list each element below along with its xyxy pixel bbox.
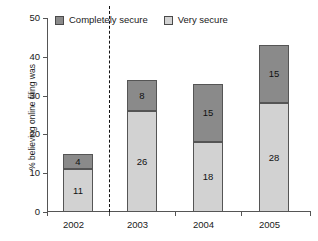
bar-value-very-secure-2002: 11 bbox=[73, 186, 83, 196]
bar-group-2002[interactable]: 4 11 2002 bbox=[63, 154, 93, 212]
plot-area: 50 40 30 20 10 0 4 11 bbox=[47, 18, 311, 212]
bar-segment-completely-secure-2005[interactable]: 15 bbox=[259, 45, 289, 103]
bar-segment-very-secure-2003[interactable]: 26 bbox=[127, 111, 157, 212]
y-tick-label-20: 20 bbox=[29, 128, 40, 139]
y-tick-label-0: 0 bbox=[35, 206, 40, 217]
bar-segment-completely-secure-2003[interactable]: 8 bbox=[127, 80, 157, 111]
bar-value-completely-secure-2004: 15 bbox=[203, 108, 214, 118]
y-tick-20: 20 bbox=[43, 134, 47, 135]
y-tick-30: 30 bbox=[43, 96, 47, 97]
y-tick-label-50: 50 bbox=[29, 12, 40, 23]
x-axis-label-2003: 2003 bbox=[127, 219, 148, 230]
bar-value-very-secure-2003: 26 bbox=[137, 157, 148, 167]
y-tick-label-10: 10 bbox=[29, 167, 40, 178]
stacked-bar-chart: Completely secure Very secure % believin… bbox=[0, 0, 318, 241]
x-tick-3 bbox=[241, 212, 242, 216]
bar-value-completely-secure-2005: 15 bbox=[269, 69, 280, 79]
y-tick-label-40: 40 bbox=[29, 51, 40, 62]
bar-segment-very-secure-2002[interactable]: 11 bbox=[63, 169, 93, 212]
bar-group-2004[interactable]: 15 18 2004 bbox=[193, 84, 223, 212]
y-tick-50: 50 bbox=[43, 18, 47, 19]
bar-segment-very-secure-2005[interactable]: 28 bbox=[259, 103, 289, 212]
x-tick-4 bbox=[310, 212, 311, 216]
bar-value-very-secure-2005: 28 bbox=[269, 153, 280, 163]
x-tick-1 bbox=[109, 212, 110, 216]
x-axis-label-2004: 2004 bbox=[193, 219, 214, 230]
y-tick-label-30: 30 bbox=[29, 90, 40, 101]
bar-value-completely-secure-2002: 4 bbox=[75, 157, 80, 167]
bar-segment-very-secure-2004[interactable]: 18 bbox=[193, 142, 223, 212]
y-axis-line bbox=[47, 18, 48, 212]
y-tick-10: 10 bbox=[43, 173, 47, 174]
bar-group-2003[interactable]: 8 26 2003 bbox=[127, 80, 157, 212]
bar-group-2005[interactable]: 15 28 2005 bbox=[259, 45, 289, 212]
vertical-dashed-divider bbox=[109, 6, 110, 212]
bar-segment-completely-secure-2002[interactable]: 4 bbox=[63, 154, 93, 170]
x-tick-0 bbox=[47, 212, 48, 216]
x-tick-2 bbox=[175, 212, 176, 216]
x-axis-label-2002: 2002 bbox=[63, 219, 84, 230]
bar-segment-completely-secure-2004[interactable]: 15 bbox=[193, 84, 223, 142]
x-axis-label-2005: 2005 bbox=[259, 219, 280, 230]
y-tick-40: 40 bbox=[43, 57, 47, 58]
bar-value-completely-secure-2003: 8 bbox=[139, 91, 144, 101]
bar-value-very-secure-2004: 18 bbox=[203, 172, 214, 182]
